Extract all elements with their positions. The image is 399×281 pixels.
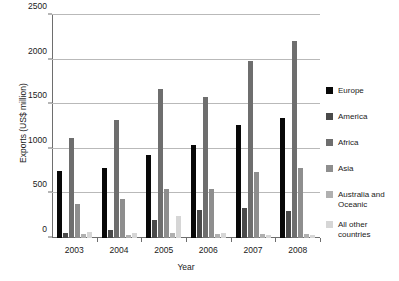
legend-item-label: Australia and Oceanic (338, 190, 385, 209)
bar (254, 172, 259, 238)
bar-group (191, 15, 226, 238)
bar (164, 189, 169, 238)
plot-area: 05001000150020002500 2003200420052006200… (52, 15, 320, 238)
bar (69, 138, 74, 238)
legend-item-australia-and-oceanic[interactable]: Australia and Oceanic (326, 190, 385, 209)
legend-item-all-other-countries[interactable]: All other countries (326, 220, 370, 239)
bar (248, 61, 253, 239)
legend-swatch-icon (326, 221, 333, 228)
legend-item-label: All other countries (338, 220, 370, 239)
bar (132, 233, 137, 238)
x-tick-mark (275, 238, 276, 242)
bar (87, 232, 92, 238)
bar (298, 168, 303, 238)
legend-swatch-icon (326, 165, 333, 172)
bar (108, 230, 113, 238)
y-tick-mark (48, 237, 52, 238)
bar (260, 234, 265, 238)
bar (191, 145, 196, 238)
y-tick-mark (48, 147, 52, 148)
bar (236, 125, 241, 238)
bar (146, 155, 151, 238)
bar (75, 204, 80, 238)
bar (114, 120, 119, 238)
bar (304, 234, 309, 238)
bar (292, 41, 297, 238)
bar (209, 189, 214, 238)
y-tick-label: 0 (42, 225, 47, 234)
bar (57, 171, 62, 238)
bar (215, 234, 220, 238)
y-tick-mark (48, 192, 52, 193)
bar (126, 235, 131, 238)
bar-group (102, 15, 137, 238)
x-tick-label: 2004 (110, 245, 129, 255)
bar (203, 97, 208, 238)
legend-item-label: Africa (338, 138, 358, 148)
x-tick-label: 2008 (288, 245, 307, 255)
y-tick-label: 1000 (28, 135, 47, 144)
x-axis-title: Year (52, 262, 320, 272)
legend-item-europe[interactable]: Europe (326, 86, 364, 96)
legend-item-label: Europe (338, 86, 364, 96)
bar (286, 211, 291, 238)
y-tick-label: 500 (33, 180, 47, 189)
y-tick-mark (48, 103, 52, 104)
y-tick-label: 1500 (28, 91, 47, 100)
legend-item-asia[interactable]: Asia (326, 164, 354, 174)
bar (102, 168, 107, 238)
bar-group (236, 15, 271, 238)
bar (310, 235, 315, 238)
y-tick-label: 2500 (28, 2, 47, 11)
bar (280, 118, 285, 238)
bar-group (146, 15, 181, 238)
legend-swatch-icon (326, 191, 333, 198)
bar (221, 233, 226, 238)
y-axis-line (52, 15, 53, 238)
legend-swatch-icon (326, 113, 333, 120)
bar-group (280, 15, 315, 238)
legend-swatch-icon (326, 139, 333, 146)
x-tick-mark (141, 238, 142, 242)
x-tick-label: 2005 (154, 245, 173, 255)
legend-item-label: Asia (338, 164, 354, 174)
bar (242, 208, 247, 238)
x-tick-label: 2003 (65, 245, 84, 255)
x-tick-mark (320, 238, 321, 242)
y-tick-mark (48, 58, 52, 59)
bar (197, 210, 202, 238)
bar (120, 199, 125, 238)
y-axis-title: Exports (US$ million) (18, 48, 28, 198)
x-tick-label: 2006 (199, 245, 218, 255)
x-tick-mark (97, 238, 98, 242)
x-tick-label: 2007 (244, 245, 263, 255)
bar (176, 216, 181, 238)
legend-item-label: America (338, 112, 367, 122)
y-tick-label: 2000 (28, 46, 47, 55)
x-tick-mark (186, 238, 187, 242)
legend-swatch-icon (326, 87, 333, 94)
bar-chart: Exports (US$ million) 050010001500200025… (0, 0, 399, 281)
x-tick-mark (231, 238, 232, 242)
bar (158, 89, 163, 238)
bar-group (57, 15, 92, 238)
bar (152, 220, 157, 238)
bar (170, 233, 175, 238)
legend-item-america[interactable]: America (326, 112, 367, 122)
bar (266, 235, 271, 238)
legend-item-africa[interactable]: Africa (326, 138, 358, 148)
y-tick-mark (48, 14, 52, 15)
bar (81, 234, 86, 238)
bar (63, 233, 68, 238)
